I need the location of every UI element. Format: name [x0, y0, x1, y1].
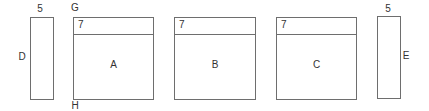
panel-a-header-label: 7	[78, 19, 84, 31]
panel-e	[377, 16, 401, 99]
panel-d-width-label: 5	[34, 3, 46, 15]
panel-b: 7 B	[174, 17, 256, 100]
panel-c-header-label: 7	[281, 19, 287, 31]
panel-a-header: 7	[74, 18, 153, 35]
panel-d-label: D	[16, 51, 28, 63]
panel-a-label: A	[74, 59, 153, 71]
panel-d	[30, 17, 54, 100]
diagram-canvas: 5 D G H 7 A 7 B 7 C 5 E	[0, 0, 429, 111]
panel-c-label: C	[277, 59, 356, 71]
marker-g-label: G	[69, 2, 81, 14]
panel-b-header: 7	[175, 18, 255, 35]
panel-c-header: 7	[277, 18, 356, 35]
panel-c: 7 C	[276, 17, 357, 100]
panel-e-width-label: 5	[382, 3, 394, 15]
panel-b-header-label: 7	[179, 19, 185, 31]
panel-e-label: E	[400, 50, 412, 62]
panel-b-label: B	[175, 59, 255, 71]
panel-a: 7 A	[73, 17, 154, 100]
marker-h-label: H	[69, 100, 81, 111]
